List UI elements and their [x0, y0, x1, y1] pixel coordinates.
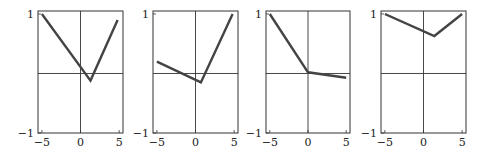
- data-line: [42, 14, 118, 81]
- x-tick-label: 0: [77, 136, 84, 149]
- x-tick-label: 5: [343, 136, 350, 149]
- x-tick-label: 0: [420, 136, 427, 149]
- subplot-1: −5051−1: [18, 8, 123, 149]
- x-tick-label: 5: [116, 136, 123, 149]
- subplot-2: −5051−1: [133, 8, 238, 149]
- x-tick-label: 0: [192, 136, 199, 149]
- subplot-4: −5051−1: [361, 8, 466, 149]
- x-tick-label: −5: [34, 136, 50, 149]
- x-tick-label: −5: [149, 136, 165, 149]
- x-tick-label: 5: [459, 136, 466, 149]
- x-tick-label: −5: [262, 136, 278, 149]
- chart-figure: −5051−1−5051−1−5051−1−5051−1: [0, 0, 489, 153]
- y-tick-label: 1: [255, 8, 262, 21]
- y-tick-label: −1: [133, 127, 149, 140]
- x-tick-label: 0: [305, 136, 312, 149]
- y-tick-label: 1: [27, 8, 34, 21]
- y-tick-label: −1: [361, 127, 377, 140]
- y-tick-label: 1: [370, 8, 377, 21]
- y-tick-label: 1: [142, 8, 149, 21]
- y-tick-label: −1: [246, 127, 262, 140]
- y-tick-label: −1: [18, 127, 34, 140]
- subplot-3: −5051−1: [246, 8, 350, 149]
- x-tick-label: −5: [377, 136, 393, 149]
- x-tick-label: 5: [231, 136, 238, 149]
- data-line: [157, 14, 233, 82]
